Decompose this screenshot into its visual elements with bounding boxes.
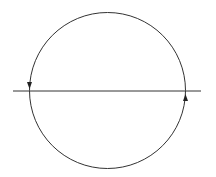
circle-line-diagram [0, 0, 216, 177]
arrow-down-icon [27, 82, 32, 89]
arrow-up-icon [183, 94, 188, 101]
